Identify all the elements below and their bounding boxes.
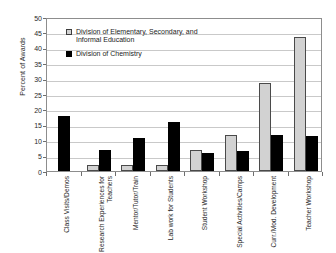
x-category-label: Mentor/Tutor/Train xyxy=(132,176,140,253)
bar-chemistry xyxy=(271,135,283,171)
y-tick-label: 40 xyxy=(14,45,42,52)
bar-chemistry xyxy=(99,150,111,171)
x-tick-mark xyxy=(288,172,289,176)
y-tick-label: 35 xyxy=(14,61,42,68)
bar-group xyxy=(220,19,255,171)
y-tick-label: 5 xyxy=(14,153,42,160)
bar-education xyxy=(294,37,306,171)
bar-education xyxy=(225,135,237,171)
x-category-label: Curr./Mod. Development xyxy=(270,176,278,253)
y-tick-label: 45 xyxy=(14,30,42,37)
y-tick-label: 20 xyxy=(14,107,42,114)
y-tick-label: 30 xyxy=(14,76,42,83)
x-category-label: Special Activities/Camps xyxy=(236,176,244,253)
x-tick-mark xyxy=(81,172,82,176)
legend-label-education: Division of Elementary, Secondary, and I… xyxy=(76,28,216,45)
x-tick-mark xyxy=(322,172,323,176)
bar-education xyxy=(190,150,202,171)
bar-group xyxy=(289,19,324,171)
x-tick-mark xyxy=(184,172,185,176)
x-tick-mark xyxy=(46,172,47,176)
y-tick-label: 15 xyxy=(14,122,42,129)
bar-chart: Percent of Awards 50454035302520151050 C… xyxy=(0,0,336,253)
legend: Division of Elementary, Secondary, and I… xyxy=(66,28,216,63)
bar-chemistry xyxy=(133,138,145,171)
bar-education xyxy=(259,83,271,171)
bar-chemistry xyxy=(168,122,180,171)
x-category-label: Student Workshop xyxy=(201,176,209,253)
x-tick-mark xyxy=(150,172,151,176)
bar-chemistry xyxy=(58,116,70,171)
y-tick-label: 50 xyxy=(14,15,42,22)
bar-education xyxy=(156,165,168,171)
x-category-label: Teacher Workshop xyxy=(305,176,313,253)
bar-group xyxy=(254,19,289,171)
y-tick-label: 25 xyxy=(14,92,42,99)
legend-label-chemistry: Division of Chemistry xyxy=(76,50,142,58)
bar-education xyxy=(87,165,99,171)
legend-swatch-icon-chemistry xyxy=(66,51,72,57)
bar-education xyxy=(121,165,133,171)
x-category-label: Class Visits/Demos xyxy=(63,176,71,253)
legend-entry-chemistry: Division of Chemistry xyxy=(66,50,216,58)
legend-swatch-icon-education xyxy=(66,29,72,35)
x-category-label: Lab work for Students xyxy=(167,176,175,253)
x-tick-mark xyxy=(115,172,116,176)
bar-chemistry xyxy=(306,136,318,171)
legend-entry-education: Division of Elementary, Secondary, and I… xyxy=(66,28,216,45)
bar-chemistry xyxy=(237,151,249,171)
bar-chemistry xyxy=(202,153,214,171)
y-tick-label: 10 xyxy=(14,138,42,145)
y-tick-label: 0 xyxy=(14,169,42,176)
x-category-label: Research Experiences for Teachers xyxy=(98,176,114,253)
x-tick-mark xyxy=(253,172,254,176)
x-tick-mark xyxy=(219,172,220,176)
